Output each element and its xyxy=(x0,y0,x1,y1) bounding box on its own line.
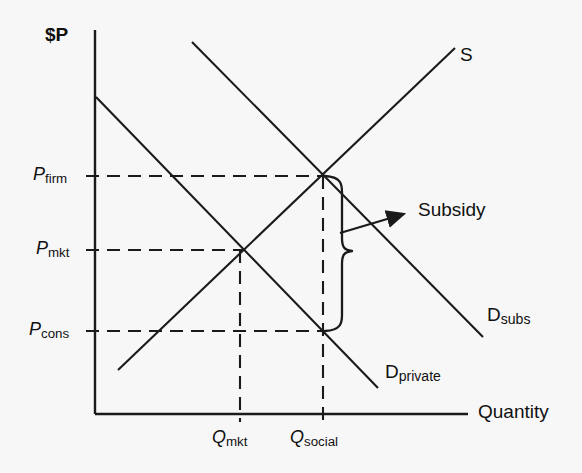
q-social-subscript: social xyxy=(304,434,338,449)
supply-curve xyxy=(118,48,455,370)
q-social-symbol: Q xyxy=(290,427,304,447)
q-mkt-symbol: Q xyxy=(212,427,226,447)
demand-subs-subscript: subs xyxy=(501,311,531,327)
quantity-axis-label-text: Quantity xyxy=(478,401,549,422)
price-tick-label-p-cons: Pcons xyxy=(29,320,69,338)
price-tick-label-p-mkt: Pmkt xyxy=(36,239,69,257)
price-axis-label-text: $P xyxy=(45,24,68,45)
demand-subs-curve xyxy=(192,42,483,337)
subsidy-annotation-label: Subsidy xyxy=(418,200,486,219)
p-mkt-subscript: mkt xyxy=(48,245,69,260)
demand-private-subscript: private xyxy=(399,368,441,384)
p-cons-subscript: cons xyxy=(41,326,69,341)
p-firm-symbol: P xyxy=(33,164,45,184)
q-mkt-subscript: mkt xyxy=(226,434,247,449)
quantity-axis-label: Quantity xyxy=(478,402,549,421)
p-mkt-symbol: P xyxy=(36,238,48,258)
subsidy-arrow xyxy=(340,214,404,233)
p-firm-subscript: firm xyxy=(45,171,67,186)
quantity-tick-label-q-mkt: Qmkt xyxy=(212,428,247,446)
demand-private-curve-label: Dprivate xyxy=(385,362,441,381)
subsidy-annotation-text: Subsidy xyxy=(418,199,486,220)
supply-curve-label: S xyxy=(460,45,473,64)
demand-subs-curve-label: Dsubs xyxy=(487,305,530,324)
p-cons-symbol: P xyxy=(29,319,41,339)
supply-demand-subsidy-figure: $P Quantity Pfirm Pmkt Pcons Qmkt Qsocia… xyxy=(0,0,582,473)
demand-private-symbol: D xyxy=(385,361,399,382)
supply-symbol: S xyxy=(460,44,473,65)
price-axis-label: $P xyxy=(45,25,68,44)
quantity-tick-label-q-social: Qsocial xyxy=(290,428,338,446)
demand-private-curve xyxy=(96,97,378,388)
demand-subs-symbol: D xyxy=(487,304,501,325)
price-tick-label-p-firm: Pfirm xyxy=(33,165,67,183)
